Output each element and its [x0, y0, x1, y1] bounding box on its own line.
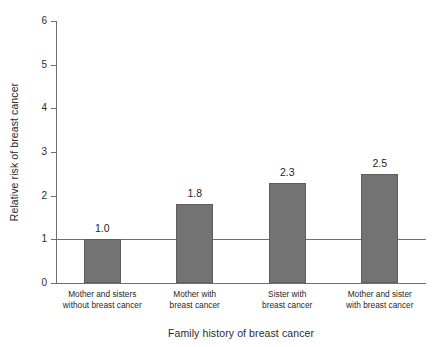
y-axis-tick-5 [51, 65, 57, 66]
y-axis-tick-3 [51, 152, 57, 153]
bar-value-label-4: 2.5 [350, 158, 410, 169]
y-axis-tick-label-6: 6 [7, 16, 47, 26]
category-label-line: Mother and sister [325, 289, 435, 300]
x-axis-line [56, 283, 426, 284]
bar-value-label-3: 2.3 [257, 167, 317, 178]
y-axis-tick-label-3: 3 [7, 147, 47, 157]
x-axis-title: Family history of breast cancer [56, 327, 426, 339]
bar-4 [361, 174, 398, 283]
bar-3 [269, 183, 306, 283]
y-axis-tick-label-0: 0 [7, 278, 47, 288]
y-axis-tick-6 [51, 21, 57, 22]
x-axis-category-label-4: Mother and sisterwith breast cancer [325, 289, 435, 310]
y-axis-tick-label-5: 5 [7, 60, 47, 70]
y-axis-tick-label-1: 1 [7, 234, 47, 244]
category-label-line: with breast cancer [325, 300, 435, 311]
y-axis-tick-4 [51, 108, 57, 109]
bar-2 [176, 204, 213, 283]
y-axis-tick-2 [51, 196, 57, 197]
y-axis-tick-label-2: 2 [7, 191, 47, 201]
bar-1 [84, 239, 121, 283]
bar-chart: Relative risk of breast cancer 0123456 1… [0, 0, 443, 347]
bar-value-label-2: 1.8 [165, 188, 225, 199]
y-axis-tick-label-4: 4 [7, 103, 47, 113]
bar-value-label-1: 1.0 [72, 223, 132, 234]
